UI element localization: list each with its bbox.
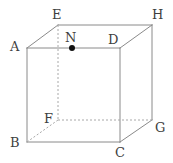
vertex-label-b: B [10, 136, 20, 149]
cube-hidden-edge-bf [27, 120, 58, 142]
cube-geometry-svg [0, 0, 173, 163]
cube-edge-dh [120, 25, 152, 48]
vertex-label-e: E [52, 8, 62, 21]
cube-edge-ae [27, 25, 58, 48]
cube-edge-cg [120, 120, 152, 142]
point-label-n: N [65, 31, 76, 44]
vertex-label-d: D [108, 33, 118, 46]
vertex-label-g: G [155, 121, 165, 134]
cube-diagram: ABCDEFGHN [0, 0, 173, 163]
vertex-label-c: C [115, 146, 125, 159]
vertex-label-f: F [44, 112, 53, 125]
point-marker-n [69, 45, 75, 51]
vertex-label-h: H [152, 8, 163, 21]
vertex-label-a: A [10, 40, 19, 53]
marked-point-group [69, 45, 75, 51]
